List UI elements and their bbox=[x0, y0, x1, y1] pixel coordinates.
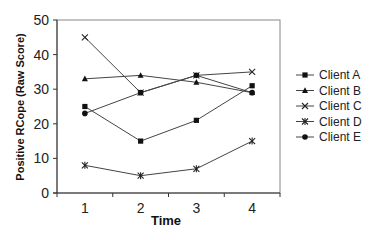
legend-label: Client A bbox=[319, 68, 360, 82]
data-point-client-a bbox=[194, 118, 199, 123]
y-axis-title: Positive RCope (Raw Score) bbox=[14, 33, 26, 181]
data-point-client-e bbox=[249, 90, 255, 96]
series-line-client-a bbox=[85, 86, 252, 141]
plot-area bbox=[57, 20, 280, 193]
x-tick-label: 1 bbox=[81, 200, 89, 216]
legend-label: Client E bbox=[319, 130, 361, 144]
y-tick-label: 30 bbox=[33, 81, 49, 97]
data-point-client-a bbox=[138, 139, 143, 144]
series-line-client-e bbox=[85, 75, 252, 113]
x-tick-label: 3 bbox=[192, 200, 200, 216]
legend-item-client-a: Client A bbox=[296, 68, 360, 82]
series-line-client-d bbox=[85, 141, 252, 176]
legend-item-client-e: Client E bbox=[296, 130, 361, 144]
data-point-client-e bbox=[194, 73, 200, 79]
line-chart: 01020304050 1234 Positive RCope (Raw Sco… bbox=[0, 0, 371, 240]
y-tick-label: 20 bbox=[33, 116, 49, 132]
legend-marker-client-a bbox=[302, 72, 307, 77]
data-point-client-e bbox=[82, 111, 88, 117]
legend-label: Client C bbox=[319, 99, 362, 113]
legend-label: Client B bbox=[319, 84, 361, 98]
data-point-client-e bbox=[138, 90, 144, 96]
data-point-client-a bbox=[250, 83, 255, 88]
legend-label: Client D bbox=[319, 115, 362, 129]
legend-item-client-c: Client C bbox=[296, 99, 362, 113]
x-tick-label: 2 bbox=[137, 200, 145, 216]
x-tick-label: 4 bbox=[248, 200, 256, 216]
data-point-client-a bbox=[82, 104, 87, 109]
y-tick-label: 40 bbox=[33, 47, 49, 63]
legend-item-client-b: Client B bbox=[296, 84, 361, 98]
data-point-client-c bbox=[82, 34, 88, 40]
data-point-client-d bbox=[249, 138, 255, 145]
y-tick-label: 10 bbox=[33, 150, 49, 166]
y-tick-label: 0 bbox=[41, 185, 49, 201]
x-axis-title: Time bbox=[151, 213, 181, 228]
legend-item-client-d: Client D bbox=[296, 115, 362, 129]
y-tick-label: 50 bbox=[33, 12, 49, 28]
data-point-client-b bbox=[138, 72, 144, 78]
legend-marker-client-e bbox=[302, 134, 308, 140]
